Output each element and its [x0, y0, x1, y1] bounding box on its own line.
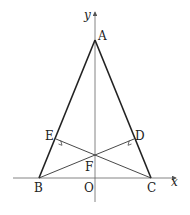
- point-label-A: A: [97, 29, 107, 43]
- point-label-C: C: [147, 181, 156, 195]
- point-label-E: E: [45, 129, 54, 143]
- side-AC: [95, 40, 151, 178]
- diagram-canvas: y x A B C D E F O: [0, 0, 190, 215]
- point-label-D: D: [135, 129, 145, 143]
- point-label-B: B: [34, 181, 43, 195]
- x-axis-label: x: [171, 175, 178, 189]
- point-label-F: F: [85, 160, 93, 174]
- side-AB: [39, 40, 95, 178]
- y-axis-label: y: [83, 8, 91, 22]
- origin-label: O: [84, 181, 94, 195]
